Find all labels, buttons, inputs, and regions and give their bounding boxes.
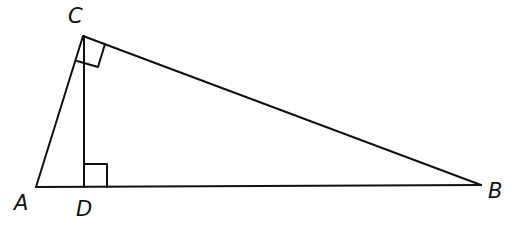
segment-bc [83, 36, 481, 185]
segment-ab [36, 185, 481, 187]
vertex-label-a: A [14, 193, 28, 214]
vertex-label-c: C [68, 6, 83, 27]
segment-ca [36, 36, 83, 187]
diagram-canvas: C A D B [0, 0, 511, 234]
vertex-label-b: B [488, 181, 502, 202]
right-angle-marker-c [77, 44, 105, 67]
vertex-label-d: D [76, 199, 92, 220]
right-angle-marker-d [84, 164, 107, 187]
